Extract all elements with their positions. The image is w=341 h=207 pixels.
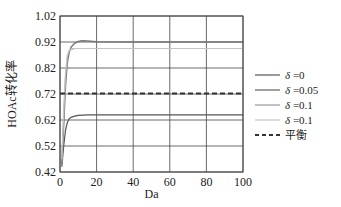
chart: 0.420.520.620.720.820.921.02 02040608010… [0,0,341,207]
series-line [62,49,243,162]
legend-label: δ =0.05 [285,84,319,96]
y-tick-label: 0.72 [35,87,56,101]
series-line [62,49,243,160]
y-tick-label: 0.52 [35,139,56,153]
legend-label: δ =0.1 [285,114,313,126]
y-tick-label: 0.42 [35,165,56,179]
x-tick-label: 80 [200,175,212,189]
y-axis-ticks: 0.420.520.620.720.820.921.02 [35,9,56,179]
x-tick-label: 60 [164,175,176,189]
legend-label: δ =0.1 [285,99,313,111]
y-tick-label: 1.02 [35,9,56,23]
x-tick-label: 0 [57,175,63,189]
x-tick-label: 20 [91,175,103,189]
series-line [62,115,243,167]
legend-label: 平衡 [285,129,307,141]
x-tick-label: 40 [127,175,139,189]
data-series [60,41,243,167]
y-axis-label: HOAc转化率 [4,60,19,127]
x-tick-label: 100 [234,175,252,189]
x-axis-label: Da [145,187,160,201]
y-tick-label: 0.82 [35,61,56,75]
legend: δ =0δ =0.05δ =0.1δ =0.1平衡 [255,69,319,141]
y-tick-label: 0.62 [35,113,56,127]
legend-label: δ =0 [285,69,305,81]
y-tick-label: 0.92 [35,35,56,49]
